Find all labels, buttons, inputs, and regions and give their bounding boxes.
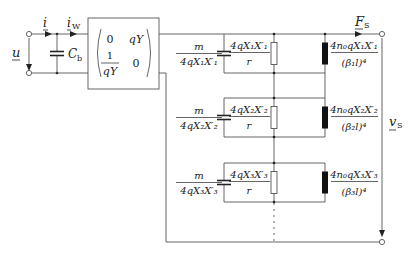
mass-label-den: 4qX₃X′₃ <box>179 185 217 196</box>
current-i-arrow-icon <box>45 31 52 37</box>
damping-resistor-icon <box>271 107 277 129</box>
junction-dot <box>324 33 327 36</box>
resistor-label-den: r <box>247 185 253 196</box>
junction-dot <box>273 97 276 100</box>
resistor-label-num: 4qX₂X′₂ <box>229 104 267 115</box>
velocity-label: v <box>389 114 397 129</box>
force-arrow-icon <box>355 31 362 37</box>
matrix-left-paren <box>98 29 102 77</box>
cb-sub: b <box>77 54 82 63</box>
junction-dot <box>273 136 276 139</box>
spring-label-num: 4n₀qX₃X′₃ <box>329 169 378 180</box>
resistor-label-den: r <box>247 120 253 131</box>
force-sub: S <box>364 21 369 30</box>
circuit-diagram: u i i W C b 0 qY 1 qY 0 F S v S m4qX₁X′₁… <box>0 0 411 259</box>
spring-label-den: (β₂l)⁴ <box>342 121 367 132</box>
junction-dot <box>273 201 276 204</box>
matrix-r2c2: 0 <box>133 57 140 70</box>
velocity-arrow-icon <box>379 230 385 237</box>
velocity-sub: S <box>397 121 402 130</box>
matrix-r1c1: 0 <box>107 33 114 46</box>
voltage-u-label: u <box>12 45 20 60</box>
resistor-label-den: r <box>247 56 253 67</box>
mass-label-den: 4qX₁X′₁ <box>179 56 217 67</box>
current-i-label: i <box>43 16 47 30</box>
mass-label-den: 4qX₂X′₂ <box>179 120 217 131</box>
resistor-label-num: 4qX₁X′₁ <box>229 40 267 51</box>
output-terminal-bottom <box>379 239 384 244</box>
damping-resistor-icon <box>271 172 277 194</box>
current-iw-sub: W <box>72 22 81 31</box>
current-iw-label: i <box>67 16 71 30</box>
mass-label-num: m <box>194 41 203 52</box>
damping-resistor-icon <box>271 43 277 65</box>
spring-inductor-icon <box>322 172 328 194</box>
resistor-label-num: 4qX₃X′₃ <box>229 169 267 180</box>
input-terminal-top <box>26 31 31 36</box>
matrix-r2c1-den: qY <box>103 65 119 78</box>
output-terminal-top <box>379 31 384 36</box>
voltage-u-arrow-icon <box>26 64 32 71</box>
spring-label-den: (β₃l)⁴ <box>342 186 367 197</box>
junction-dot <box>273 162 276 165</box>
spring-label-den: (β₁l)⁴ <box>342 57 367 68</box>
matrix-r1c2: qY <box>129 33 145 46</box>
junction-dot <box>273 72 276 75</box>
input-terminal-bottom <box>26 70 31 75</box>
spring-label-num: 4n₀qX₁X′₁ <box>329 40 378 51</box>
matrix-right-paren <box>147 29 151 77</box>
mass-label-num: m <box>194 170 203 181</box>
spring-label-num: 4n₀qX₂X′₂ <box>329 104 378 115</box>
junction-dot <box>273 33 276 36</box>
spring-inductor-icon <box>322 107 328 129</box>
mass-label-num: m <box>194 105 203 116</box>
transformer-matrix-box <box>88 18 159 89</box>
spring-inductor-icon <box>322 43 328 65</box>
cb-label: C <box>68 47 77 61</box>
matrix-r2c1-num: 1 <box>107 50 113 61</box>
current-iw-arrow-icon <box>70 31 77 37</box>
